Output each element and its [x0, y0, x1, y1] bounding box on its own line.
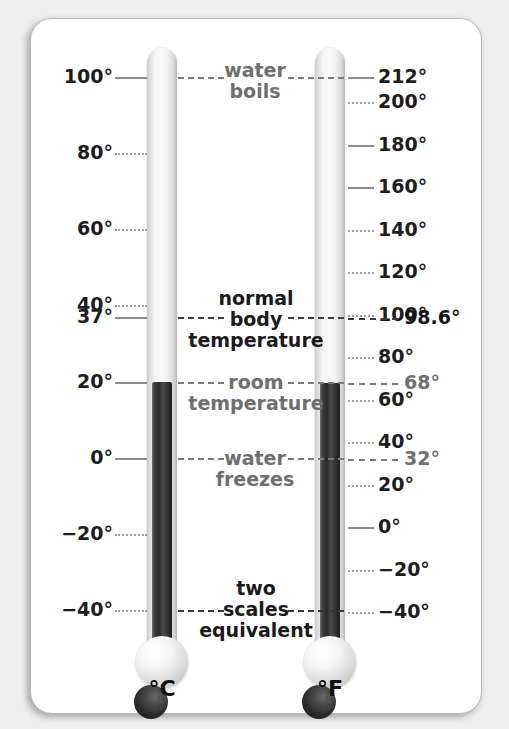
annotation-normal-body-temperature: normal body temperature: [178, 288, 334, 351]
fahrenheit-label--20: −20°: [378, 560, 452, 579]
celsius-tick-40: [115, 305, 147, 307]
fahrenheit-unit-caption: °F: [290, 678, 370, 700]
fahrenheit-tick-20: [348, 485, 374, 487]
annotation-water-boils: water boils: [185, 60, 325, 102]
fahrenheit-label-0: 0°: [378, 517, 452, 536]
annotation-room-temperature: room temperature: [178, 372, 334, 414]
fahrenheit-tick-80: [348, 357, 374, 359]
annotation-two-scales-equivalent: two scales equivalent: [178, 578, 334, 641]
thermometer-figure: 100°80°60°40°37°20°0°−20°−40°212°200°180…: [0, 0, 509, 729]
celsius-tick-37: [115, 317, 147, 319]
fahrenheit-tick--40: [348, 612, 374, 614]
fahrenheit-tick-100: [348, 315, 374, 317]
fahrenheit-label--40: −40°: [378, 602, 452, 621]
fahrenheit-label-20: 20°: [378, 475, 452, 494]
celsius-tick--40: [115, 610, 147, 612]
fahrenheit-tick--20: [348, 570, 374, 572]
fahrenheit-label-180: 180°: [378, 135, 452, 154]
callout-room-temperature: 68°: [404, 373, 440, 392]
celsius-tick-80: [115, 153, 147, 155]
celsius-label-100: 100°: [35, 67, 113, 86]
dash-callout-room-temperature: [348, 383, 398, 385]
celsius-label--40: −40°: [35, 600, 113, 619]
fahrenheit-label-212: 212°: [378, 67, 452, 86]
celsius-label-20: 20°: [35, 372, 113, 391]
celsius-label--20: −20°: [35, 524, 113, 543]
celsius-thermometer: [147, 48, 177, 648]
fahrenheit-tick-0: [348, 527, 374, 529]
celsius-tick-60: [115, 229, 147, 231]
fahrenheit-tick-40: [348, 442, 374, 444]
dash-callout-normal-body-temperature: [348, 318, 398, 320]
celsius-tick-20: [115, 382, 147, 384]
fahrenheit-tick-140: [348, 230, 374, 232]
celsius-tick-0: [115, 458, 147, 460]
celsius-label-80: 80°: [35, 143, 113, 162]
fahrenheit-tick-212: [348, 77, 374, 79]
fahrenheit-label-200: 200°: [378, 92, 452, 111]
fahrenheit-label-140: 140°: [378, 220, 452, 239]
celsius-tick--20: [115, 534, 147, 536]
fahrenheit-tick-60: [348, 400, 374, 402]
fahrenheit-label-160: 160°: [378, 177, 452, 196]
fahrenheit-label-80: 80°: [378, 347, 452, 366]
celsius-label-0: 0°: [35, 448, 113, 467]
celsius-label-60: 60°: [35, 219, 113, 238]
fahrenheit-label-120: 120°: [378, 262, 452, 281]
celsius-tick-100: [115, 77, 147, 79]
fahrenheit-tick-180: [348, 145, 374, 147]
celsius-mercury-column: [152, 382, 172, 648]
callout-water-freezes: 32°: [404, 449, 440, 468]
fahrenheit-tick-160: [348, 187, 374, 189]
annotation-water-freezes: water freezes: [185, 448, 325, 490]
dash-callout-water-freezes: [348, 459, 398, 461]
celsius-label-37: 37°: [35, 307, 113, 326]
fahrenheit-tick-200: [348, 102, 374, 104]
fahrenheit-tick-120: [348, 272, 374, 274]
callout-normal-body-temperature: 98.6°: [404, 308, 460, 327]
celsius-unit-caption: °C: [122, 678, 202, 700]
